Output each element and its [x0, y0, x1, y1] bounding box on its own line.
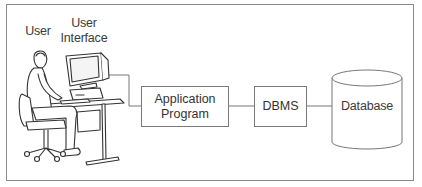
- dbms-label: DBMS: [262, 99, 298, 114]
- user-interface-label: User Interface: [54, 16, 114, 46]
- user-label: User: [18, 24, 58, 39]
- user-interface-line1: User: [54, 16, 114, 31]
- dbms-box: DBMS: [254, 86, 307, 127]
- application-program-line1: Application: [154, 92, 215, 107]
- user-at-computer-icon: [19, 51, 124, 165]
- user-interface-line2: Interface: [54, 31, 114, 46]
- database-label: Database: [332, 99, 402, 114]
- application-program-line2: Program: [154, 107, 215, 122]
- application-program-box: Application Program: [141, 86, 229, 127]
